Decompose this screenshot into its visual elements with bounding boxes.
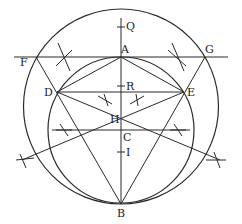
label-b: B xyxy=(117,207,125,220)
label-e: E xyxy=(187,86,195,99)
label-r: R xyxy=(126,80,135,93)
label-q: Q xyxy=(126,20,135,33)
label-i: I xyxy=(126,146,130,159)
label-d: D xyxy=(44,86,53,99)
line-e-bisector xyxy=(22,92,184,160)
label-a: A xyxy=(120,43,130,56)
label-g: G xyxy=(205,43,214,56)
label-c: C xyxy=(123,131,131,144)
label-f: F xyxy=(20,56,28,69)
construction-figure: Q A F G D E R H C I B xyxy=(0,0,242,224)
line-d-bisector xyxy=(57,92,220,160)
geometry-diagram: Q A F G D E R H C I B xyxy=(0,0,242,224)
label-h: H xyxy=(110,113,120,126)
